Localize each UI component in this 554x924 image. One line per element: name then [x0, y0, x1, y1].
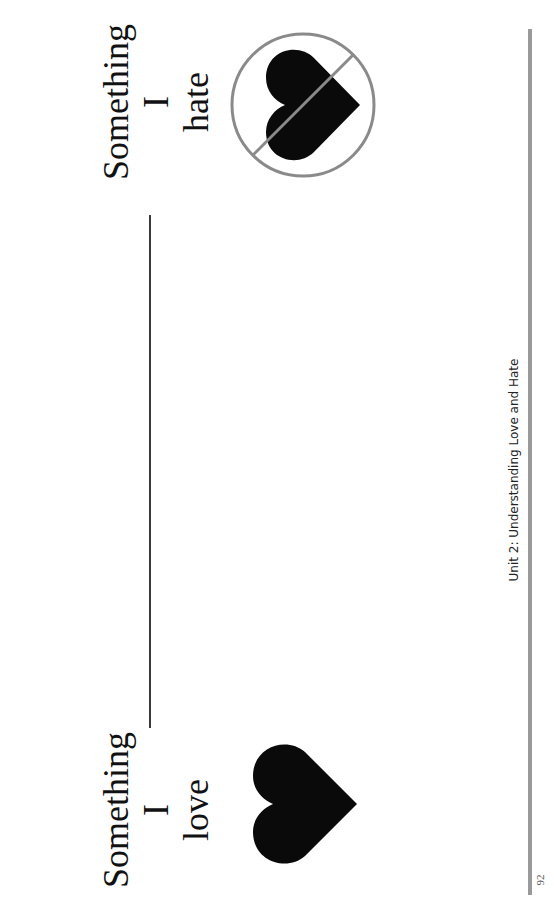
heart-icon [245, 744, 360, 864]
love-label-line-3: love [176, 720, 216, 900]
hate-label-line-3: hate [176, 12, 216, 192]
footer-unit-title: Unit 2: Understanding Love and Hate [507, 270, 521, 670]
page-number: 92 [534, 870, 546, 890]
crossed-heart-icon [266, 50, 360, 160]
answer-blank-line[interactable] [149, 215, 151, 728]
footer-rule [528, 29, 532, 895]
something-i-hate-label: Something I hate [96, 12, 216, 192]
love-label-line-2: I [136, 720, 176, 900]
hate-label-line-1: Something [96, 12, 136, 192]
no-heart-icon [228, 30, 378, 180]
something-i-love-label: Something I love [96, 720, 216, 900]
worksheet-page: Something I love Something I hate Unit 2… [0, 0, 554, 924]
love-label-line-1: Something [96, 720, 136, 900]
hate-label-line-2: I [136, 12, 176, 192]
